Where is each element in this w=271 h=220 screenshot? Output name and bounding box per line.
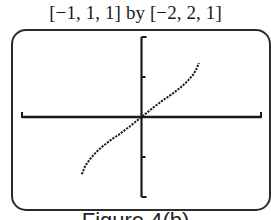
figure-caption: Figure 4(b) xyxy=(0,209,271,220)
function-curve xyxy=(82,63,199,174)
graph-plot xyxy=(0,0,271,220)
